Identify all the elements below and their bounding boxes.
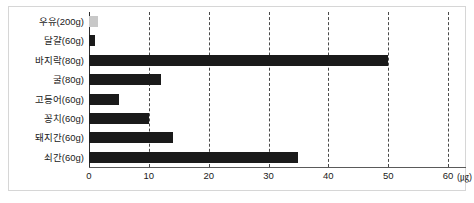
x-tick-label: 60	[443, 170, 454, 181]
plot-area	[89, 12, 466, 167]
bar-row	[89, 128, 466, 147]
x-axis-tick-labels: 0102030405060(㎍)	[0, 170, 474, 186]
y-axis-label: 꽁치(60g)	[44, 109, 84, 128]
x-tick-label: 10	[144, 170, 155, 181]
bar-row	[89, 90, 466, 109]
bar	[89, 16, 98, 27]
x-tick-label: 0	[86, 170, 91, 181]
bar	[89, 132, 173, 143]
bar-row	[89, 31, 466, 50]
bar-row	[89, 70, 466, 89]
bar-row	[89, 148, 466, 167]
bar-row	[89, 12, 466, 31]
x-tick-label: 20	[203, 170, 214, 181]
bar	[89, 55, 388, 66]
y-axis-label: 쇠간(60g)	[44, 148, 84, 167]
bar	[89, 94, 119, 105]
y-axis-label: 우유(200g)	[39, 12, 84, 31]
bars-layer	[89, 12, 466, 167]
y-axis-label: 달걀(60g)	[44, 31, 84, 50]
y-axis-label: 굴(80g)	[53, 70, 84, 89]
x-tick-label: 50	[383, 170, 394, 181]
y-axis-label: 바지락(80g)	[35, 51, 84, 70]
y-axis-label: 돼지간(60g)	[35, 128, 84, 147]
bar	[89, 35, 95, 46]
bar-row	[89, 51, 466, 70]
x-tick-label: 30	[263, 170, 274, 181]
x-axis-line	[89, 167, 466, 168]
y-axis-category-labels: 우유(200g)달걀(60g)바지락(80g)굴(80g)고등어(60g)꽁치(…	[0, 12, 88, 167]
x-axis-unit-label: (㎍)	[457, 170, 472, 183]
bar-chart-figure: 우유(200g)달걀(60g)바지락(80g)굴(80g)고등어(60g)꽁치(…	[0, 0, 474, 203]
y-axis-label: 고등어(60g)	[35, 90, 84, 109]
bar-row	[89, 109, 466, 128]
bar	[89, 152, 298, 163]
bar	[89, 113, 149, 124]
bar	[89, 74, 161, 85]
x-tick-label: 40	[323, 170, 334, 181]
